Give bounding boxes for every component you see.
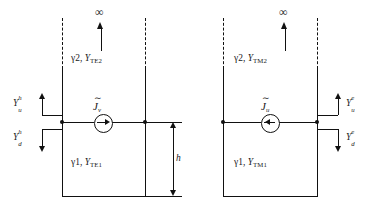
- lower-admittance-subscript: TM1: [253, 161, 267, 168]
- left-rail-upper: [62, 69, 63, 122]
- height-dimension-label: h: [176, 154, 181, 164]
- source-symbol-subscript: u: [266, 106, 269, 113]
- dimension-arrow-head-bottom: [170, 190, 176, 196]
- admittance-arrow-shaft-up: [42, 98, 43, 115]
- left-boundary-dashed: [223, 18, 224, 69]
- right-rail-lower: [317, 122, 318, 196]
- infinity-symbol: ∞: [279, 6, 288, 18]
- upper-gamma: γ2,: [71, 53, 82, 63]
- admittance-leader-down: [42, 129, 62, 130]
- upper-region-label: γ2, YTM2: [234, 54, 267, 65]
- admittance-leader-up: [42, 115, 62, 116]
- source-wire-right: [111, 122, 146, 123]
- figure-canvas: ∞ ∼ Jv γ2, YTE2 γ1, YTE1: [0, 0, 381, 218]
- current-source-symbol: [261, 114, 280, 133]
- infinity-symbol: ∞: [95, 6, 104, 18]
- right-boundary-dashed: [145, 18, 146, 69]
- admittance-down-superscript: h: [18, 129, 21, 134]
- source-symbol-subscript: v: [98, 106, 101, 113]
- lower-gamma: γ1,: [234, 157, 245, 167]
- upper-admittance-subscript: TM2: [253, 57, 267, 64]
- admittance-leader-up: [318, 115, 338, 116]
- upper-admittance-subscript: TE2: [90, 57, 102, 64]
- admittance-up-subscript: u: [18, 107, 21, 112]
- junction-node-right: [315, 120, 320, 125]
- infinity-arrow-shaft: [285, 28, 286, 51]
- ground-short-bar: [62, 196, 146, 197]
- upper-gamma: γ2,: [234, 53, 245, 63]
- left-rail-lower: [62, 122, 63, 196]
- ground-short-bar: [223, 196, 318, 197]
- source-current-label: ∼ Ju: [261, 100, 269, 112]
- lower-region-label: γ1, YTM1: [234, 158, 267, 169]
- admittance-arrow-shaft-down: [42, 129, 43, 146]
- upper-region-label: γ2, YTE2: [71, 54, 102, 65]
- junction-node-left: [221, 120, 226, 125]
- admittance-down-superscript: e: [351, 129, 354, 134]
- infinity-arrow-head: [97, 22, 103, 29]
- admittance-up-superscript: e: [351, 95, 354, 100]
- infinity-arrow-head: [281, 22, 287, 29]
- infinity-arrow-shaft: [101, 28, 102, 51]
- right-boundary-dashed: [317, 18, 318, 69]
- lower-gamma: γ1,: [71, 157, 82, 167]
- source-wire-left: [223, 122, 261, 123]
- dimension-arrow-shaft: [173, 124, 174, 194]
- admittance-leader-down: [318, 129, 338, 130]
- admittance-down-label: h Y d: [13, 129, 22, 147]
- admittance-arrow-shaft-up: [338, 98, 339, 115]
- admittance-up-superscript: h: [18, 95, 21, 100]
- right-rail-upper: [145, 69, 146, 122]
- source-wire-left: [62, 122, 94, 123]
- dimension-extension-top: [146, 122, 182, 123]
- admittance-arrow-shaft-down: [338, 129, 339, 146]
- source-arrow-head: [105, 119, 110, 125]
- te-network-panel: ∞ ∼ Jv γ2, YTE2 γ1, YTE1: [0, 0, 190, 218]
- source-wire-right: [278, 122, 318, 123]
- admittance-arrow-head-up: [335, 93, 341, 99]
- tm-network-panel: ∞ ∼ Ju γ2, YTM2 γ1, YTM1: [191, 0, 381, 218]
- left-boundary-dashed: [62, 18, 63, 69]
- dimension-extension-bottom: [146, 196, 182, 197]
- junction-node-left: [60, 120, 65, 125]
- admittance-arrow-head-down: [39, 146, 45, 152]
- admittance-down-subscript: d: [18, 141, 21, 146]
- left-rail-lower: [223, 122, 224, 196]
- lower-region-label: γ1, YTE1: [71, 158, 102, 169]
- tilde-accent: ∼: [262, 94, 270, 103]
- admittance-up-subscript: u: [351, 107, 354, 112]
- admittance-up-label: e Y u: [346, 95, 355, 113]
- left-rail-upper: [223, 69, 224, 122]
- admittance-down-label: e Y d: [346, 129, 355, 147]
- source-current-label: ∼ Jv: [93, 100, 101, 112]
- source-arrow-head: [265, 119, 270, 125]
- admittance-up-label: h Y u: [13, 95, 22, 113]
- current-source-symbol: [94, 114, 113, 133]
- right-rail-lower: [145, 122, 146, 196]
- admittance-down-subscript: d: [351, 141, 354, 146]
- tilde-accent: ∼: [94, 94, 102, 103]
- admittance-arrow-head-down: [335, 146, 341, 152]
- lower-admittance-subscript: TE1: [90, 161, 102, 168]
- dimension-arrow-head-top: [170, 122, 176, 128]
- admittance-arrow-head-up: [39, 93, 45, 99]
